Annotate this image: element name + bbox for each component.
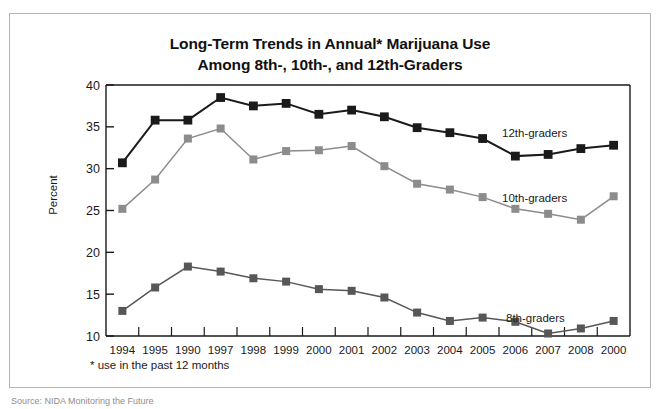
data-point-marker <box>249 102 258 111</box>
x-tick-label: 1998 <box>241 344 267 356</box>
x-tick-label: 2003 <box>404 344 430 356</box>
data-point-marker <box>183 116 192 125</box>
x-tick-label: 2002 <box>372 344 398 356</box>
x-tick-label: 1999 <box>273 344 299 356</box>
x-tick-label: 1990 <box>175 344 201 356</box>
data-point-marker <box>118 307 126 315</box>
data-point-marker <box>413 123 422 132</box>
x-tick-label: 2007 <box>535 344 561 356</box>
series-label-12th-graders: 12th-graders <box>502 127 567 139</box>
data-point-marker <box>249 274 257 282</box>
data-point-marker <box>511 152 520 161</box>
data-point-marker <box>315 146 323 154</box>
series-label-8th-graders: 8th-graders <box>506 312 565 324</box>
y-tick-label: 40 <box>86 79 100 93</box>
data-point-marker <box>151 116 160 125</box>
x-tick-label: 2006 <box>503 344 529 356</box>
data-point-marker <box>609 141 618 150</box>
y-tick-label: 20 <box>86 246 100 260</box>
data-point-marker <box>118 205 126 213</box>
data-point-marker <box>282 278 290 286</box>
data-point-marker <box>380 112 389 121</box>
series-line <box>122 129 613 220</box>
series-label-10th-graders: 10th-graders <box>502 192 567 204</box>
data-point-marker <box>380 294 388 302</box>
y-tick-label: 25 <box>86 204 100 218</box>
data-point-marker <box>577 324 585 332</box>
data-point-marker <box>445 128 454 137</box>
data-point-marker <box>478 134 487 143</box>
data-point-marker <box>348 287 356 295</box>
data-point-marker <box>413 180 421 188</box>
y-tick-label: 30 <box>86 162 100 176</box>
data-point-marker <box>348 142 356 150</box>
data-point-marker <box>217 268 225 276</box>
data-point-marker <box>544 150 553 159</box>
data-point-marker <box>446 317 454 325</box>
x-tick-label: 1997 <box>208 344 234 356</box>
data-point-marker <box>184 263 192 271</box>
x-tick-label: 2000 <box>306 344 332 356</box>
data-point-marker <box>446 186 454 194</box>
data-point-marker <box>577 216 585 224</box>
data-point-marker <box>380 162 388 170</box>
y-tick-label: 10 <box>86 330 100 344</box>
data-point-marker <box>544 210 552 218</box>
chart-footnote: * use in the past 12 months <box>90 359 229 371</box>
x-tick-label: 2005 <box>470 344 496 356</box>
y-tick-label: 35 <box>86 120 100 134</box>
data-point-marker <box>610 192 618 200</box>
data-point-marker <box>511 205 519 213</box>
data-point-marker <box>315 285 323 293</box>
data-point-marker <box>249 155 257 163</box>
x-tick-label: 2001 <box>339 344 365 356</box>
data-point-marker <box>413 309 421 317</box>
data-point-marker <box>151 176 159 184</box>
data-point-marker <box>184 135 192 143</box>
data-point-marker <box>479 314 487 322</box>
x-tick-label: 2008 <box>568 344 594 356</box>
figure-frame: Long-Term Trends in Annual* Marijuana Us… <box>9 13 651 388</box>
data-point-marker <box>151 283 159 291</box>
data-point-marker <box>216 93 225 102</box>
x-tick-label: 1994 <box>110 344 136 356</box>
x-tick-label: 2000 <box>601 344 627 356</box>
data-point-marker <box>347 106 356 115</box>
series-10th-graders <box>118 125 617 224</box>
data-point-marker <box>282 147 290 155</box>
data-point-marker <box>282 99 291 108</box>
data-point-marker <box>610 317 618 325</box>
data-point-marker <box>217 125 225 133</box>
data-point-marker <box>576 144 585 153</box>
x-tick-label: 2004 <box>437 344 463 356</box>
series-8th-graders <box>118 263 617 338</box>
y-tick-label: 15 <box>86 288 100 302</box>
x-tick-label: 1995 <box>142 344 168 356</box>
source-caption: Source: NIDA Monitoring the Future <box>11 396 154 406</box>
data-point-marker <box>118 158 127 167</box>
y-axis-title: Percent <box>47 135 59 255</box>
data-point-marker <box>544 329 552 337</box>
data-point-marker <box>314 110 323 119</box>
data-point-marker <box>479 193 487 201</box>
